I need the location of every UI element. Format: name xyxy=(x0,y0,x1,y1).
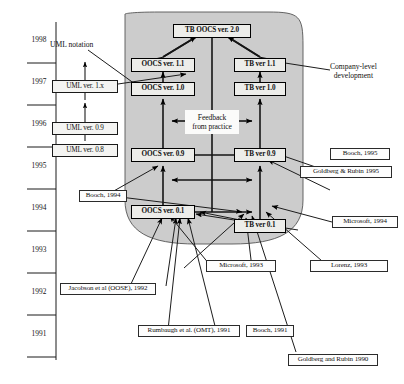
diagram-canvas: 1998 1997 1996 1995 1994 1993 1992 1991 … xyxy=(0,0,404,384)
company-level-label: Company-level development xyxy=(330,62,377,81)
node-oocs-09[interactable]: OOCS ver. 0.9 xyxy=(131,148,195,162)
node-tb-oocs-20[interactable]: TB OOCS ver. 2.0 xyxy=(173,24,251,38)
node-feedback: Feedback from practice xyxy=(185,110,239,134)
ref-lorenz-1993[interactable]: Lorenz, 1993 xyxy=(310,260,388,272)
ref-booch-1991[interactable]: Booch, 1991 xyxy=(246,325,294,337)
ref-booch-1994[interactable]: Booch, 1994 xyxy=(79,190,127,202)
feedback-line2: from practice xyxy=(192,122,231,131)
ref-jacobson-1992[interactable]: Jacobson et al (OOSE), 1992 xyxy=(60,283,156,295)
year-label: 1997 xyxy=(22,77,56,86)
node-uml-1x[interactable]: UML ver. 1.x xyxy=(52,80,118,93)
year-label: 1991 xyxy=(22,329,56,338)
uml-notation-label: UML notation xyxy=(50,40,93,49)
node-oocs-11[interactable]: OOCS ver. 1.1 xyxy=(131,58,195,72)
ref-microsoft-1993[interactable]: Microsoft, 1993 xyxy=(206,260,276,272)
ref-rumbaugh-1991[interactable]: Rumbaugh et al. (OMT), 1991 xyxy=(138,325,240,337)
ref-goldberg-rubin-1995[interactable]: Goldberg & Rubin 1995 xyxy=(300,166,392,178)
node-tb-09[interactable]: TB ver 0.9 xyxy=(234,148,286,162)
node-oocs-10[interactable]: OOCS ver. 1.0 xyxy=(131,82,195,96)
year-label: 1992 xyxy=(22,287,56,296)
company-level-line1: Company-level xyxy=(330,62,377,71)
node-tb-10[interactable]: TB ver 1.0 xyxy=(234,82,286,96)
node-tb-01[interactable]: TB ver 0.1 xyxy=(234,219,286,233)
ref-booch-1995[interactable]: Booch, 1995 xyxy=(330,148,390,160)
ref-microsoft-1994[interactable]: Microsoft, 1994 xyxy=(332,216,398,228)
year-label: 1994 xyxy=(22,203,56,212)
year-axis-lines xyxy=(27,22,56,360)
feedback-line1: Feedback xyxy=(198,113,226,122)
node-uml-09[interactable]: UML ver. 0.9 xyxy=(52,122,118,135)
company-level-line2: development xyxy=(330,71,377,80)
node-uml-08[interactable]: UML ver. 0.8 xyxy=(52,144,118,157)
ref-goldberg-rubin-1990[interactable]: Goldberg and Rubin 1990 xyxy=(288,354,378,366)
year-label: 1996 xyxy=(22,119,56,128)
node-tb-11[interactable]: TB ver 1.1 xyxy=(234,58,286,72)
year-label: 1995 xyxy=(22,161,56,170)
year-label: 1993 xyxy=(22,245,56,254)
node-oocs-01[interactable]: OOCS ver. 0.1 xyxy=(131,205,195,219)
